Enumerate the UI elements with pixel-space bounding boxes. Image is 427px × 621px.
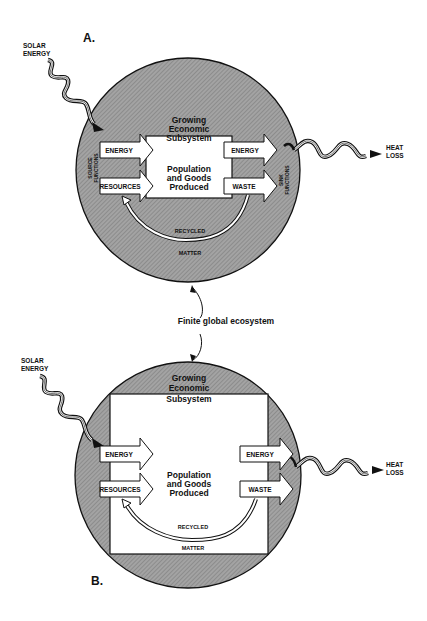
heat-loss-label-b-line1: HEAT: [386, 461, 403, 468]
svg-text:WASTE: WASTE: [248, 486, 272, 493]
recycled-label-b: RECYCLED: [178, 524, 208, 530]
subsystem-title-a-line3: Subsystem: [166, 133, 212, 143]
heat-loss-label-a-line2: LOSS: [386, 152, 404, 159]
svg-text:ENERGY: ENERGY: [105, 451, 133, 458]
diagram-b: SOLAR ENERGY Growing Economic Subsystem …: [21, 357, 404, 588]
heat-loss-label-b-line2: LOSS: [386, 469, 404, 476]
finite-global-ecosystem-label: Finite global ecosystem: [178, 316, 275, 326]
svg-text:ENERGY: ENERGY: [105, 147, 133, 154]
ecosystem-diagram: A. SOLAR ENERGY HEAT LOSS Growing Econom…: [0, 0, 427, 621]
diagram-a: A. SOLAR ENERGY HEAT LOSS Growing Econom…: [23, 31, 404, 282]
subsystem-title-b-line1: Growing: [172, 373, 206, 383]
subsystem-body-a-line3: Produced: [169, 182, 208, 192]
panel-label-a: A.: [83, 31, 95, 45]
subsystem-body-b-line3: Produced: [169, 488, 208, 498]
matter-label-a: MATTER: [179, 250, 202, 256]
subsystem-title-b-line3: Subsystem: [166, 394, 212, 404]
panel-label-b: B.: [91, 574, 103, 588]
svg-text:RESOURCES: RESOURCES: [99, 183, 141, 190]
recycled-label-a: RECYCLED: [175, 228, 205, 234]
solar-energy-label-a-line1: SOLAR: [23, 42, 46, 49]
matter-label-b: MATTER: [182, 545, 205, 551]
heat-loss-label-a-line1: HEAT: [386, 144, 403, 151]
solar-energy-label-a-line2: ENERGY: [23, 50, 51, 57]
svg-text:ENERGY: ENERGY: [246, 451, 274, 458]
subsystem-title-b-line2: Economic: [169, 383, 210, 393]
svg-text:FUNCTIONS: FUNCTIONS: [284, 165, 290, 195]
svg-text:FUNCTIONS: FUNCTIONS: [93, 153, 99, 183]
svg-text:WASTE: WASTE: [232, 183, 256, 190]
svg-text:RESOURCES: RESOURCES: [99, 486, 141, 493]
solar-energy-label-b-line1: SOLAR: [21, 357, 44, 364]
svg-text:ENERGY: ENERGY: [231, 147, 259, 154]
solar-energy-label-b-line2: ENERGY: [21, 365, 49, 372]
